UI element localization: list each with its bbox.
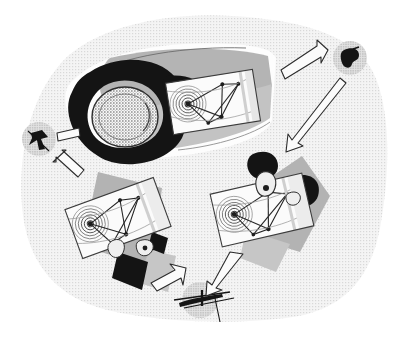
node-left — [22, 122, 56, 156]
lower-right-hook2 — [286, 192, 300, 205]
lower-left-hook2-eye — [143, 246, 148, 251]
lower-right-hook — [256, 172, 276, 196]
lower-left-hook — [108, 239, 124, 257]
lower-right-hook-eye — [263, 185, 269, 191]
figure-canvas — [0, 0, 404, 342]
stippled-oval — [92, 87, 158, 147]
node-top-right — [333, 41, 367, 75]
illustration-svg — [0, 0, 404, 342]
